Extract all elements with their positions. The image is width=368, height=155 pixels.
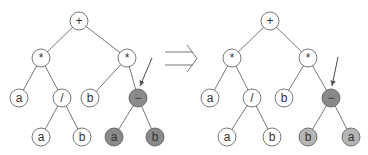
node-label: / — [52, 88, 72, 108]
node-label: b — [298, 127, 318, 147]
node-label: − — [128, 88, 148, 108]
implies-arrow-icon — [165, 45, 197, 72]
node-label: + — [69, 11, 89, 31]
node-label: b — [262, 127, 282, 147]
node-label: − — [321, 88, 341, 108]
node-label: b — [145, 127, 165, 147]
node-label: * — [117, 48, 137, 68]
node-label: b — [72, 127, 92, 147]
node-label: b — [274, 88, 294, 108]
node-label: * — [222, 48, 242, 68]
tree-after — [201, 12, 360, 146]
node-label: a — [31, 127, 51, 147]
node-label: * — [298, 48, 318, 68]
node-label: + — [260, 11, 280, 31]
node-label: a — [9, 88, 29, 108]
node-label: a — [104, 127, 124, 147]
tree-before — [10, 12, 164, 146]
node-label: b — [80, 88, 100, 108]
pointer-arrow-icon — [140, 58, 152, 86]
node-label: / — [242, 88, 262, 108]
node-label: a — [341, 127, 361, 147]
pointer-arrow-icon — [332, 57, 338, 86]
node-label: a — [200, 88, 220, 108]
node-label: a — [217, 127, 237, 147]
tree-swap-diagram: +**a/b−abab+**a/b−abba — [0, 0, 368, 155]
node-label: * — [31, 48, 51, 68]
